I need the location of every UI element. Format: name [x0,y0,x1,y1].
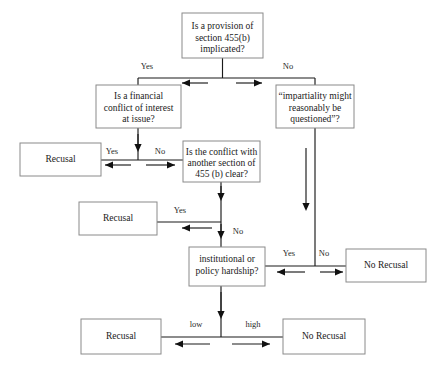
node-impartiality-line-0: “impartiality might [278,91,351,101]
arrow-conflict-down [217,186,224,201]
node-recusal-1-label: Recusal [45,154,75,164]
arrow-split-right [236,79,262,86]
node-hardship-line-0: institutional or [199,254,256,264]
node-conflict-line-1: another section of [187,158,256,168]
arrow-row2-left [105,161,131,168]
arrow-row5-right [232,340,270,347]
arrow-financial-down [134,134,141,152]
arrow-row3-left [182,224,212,231]
arrow-impartiality-long-down [302,148,309,211]
edge-label-no-impartiality: No [319,248,329,258]
node-provision-line-1: section 455(b) [195,33,250,44]
node-financial-line-0: Is a financial [114,91,163,101]
node-impartiality[interactable]: “impartiality might reasonably be questi… [276,85,354,128]
arrow-row4-right [320,268,343,275]
node-recusal-2[interactable]: Recusal [79,202,157,235]
arrow-row5-left [175,340,210,347]
edge-label-no-financial: No [155,146,165,156]
node-hardship[interactable]: institutional or policy hardship? [189,247,265,286]
node-conflict-section[interactable]: Is the conflict with another section of … [183,141,260,182]
edge-label-no-provision: No [283,61,293,71]
flowchart-canvas: Is a provision of section 455(b) implica… [0,0,445,379]
edge-label-low: low [190,319,204,329]
node-no-recusal-2[interactable]: No Recusal [283,319,365,354]
node-provision-line-2: implicated? [200,44,244,54]
node-conflict-line-2: 455 (b) clear? [195,169,248,180]
node-recusal-1[interactable]: Recusal [20,143,101,176]
node-provision-line-0: Is a provision of [191,21,254,31]
node-financial-line-1: conflict of interest [104,103,174,113]
node-no-recusal-1[interactable]: No Recusal [346,249,426,282]
node-provision[interactable]: Is a provision of section 455(b) implica… [182,13,263,58]
edge-label-yes-provision: Yes [141,61,153,71]
node-financial-line-2: at issue? [122,114,154,124]
edge-label-no-conflict: No [233,226,243,236]
edge-label-yes-hardship: Yes [283,248,295,258]
arrow-row2-right [146,161,175,168]
arrow-row4-left [277,268,305,275]
edge-label-high: high [245,319,261,329]
node-recusal-2-label: Recusal [103,213,133,223]
arrow-split-left [182,79,208,86]
node-recusal-3[interactable]: Recusal [81,319,161,354]
edge-label-yes-financial: Yes [106,146,118,156]
node-no-recusal-1-label: No Recusal [364,260,408,270]
node-recusal-3-label: Recusal [106,331,136,341]
node-impartiality-line-2: questioned”? [290,114,340,124]
node-financial-conflict[interactable]: Is a financial conflict of interest at i… [96,85,181,128]
arrow-conflict-down-2 [217,224,224,239]
arrow-hardship-down [217,292,224,319]
node-no-recusal-2-label: No Recusal [302,331,346,341]
edge-label-yes-conflict: Yes [174,205,186,215]
flowchart-svg: Is a provision of section 455(b) implica… [0,0,445,379]
node-impartiality-line-1: reasonably be [289,103,342,113]
node-hardship-line-1: policy hardship? [195,266,258,276]
node-conflict-line-0: Is the conflict with [186,147,258,157]
